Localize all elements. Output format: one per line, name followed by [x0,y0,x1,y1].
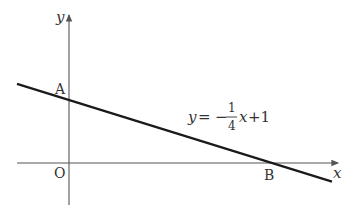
point-a-label: A [54,81,66,97]
y-axis-label: y [55,8,65,26]
coordinate-diagram: y x O A B y = − 1 4 x +1 [0,0,355,214]
line-equation: y = − 1 4 x +1 [187,101,270,133]
equation-sign: − [215,108,228,126]
x-axis-label: x [333,164,342,182]
equation-var: x [239,108,248,126]
equation-denominator: 4 [228,119,236,133]
origin-label: O [54,165,65,181]
equation-lhs: y [187,108,197,126]
equation-equals: = [198,108,211,126]
equation-numerator: 1 [228,101,236,115]
point-b-label: B [264,167,274,183]
equation-tail: +1 [248,108,270,126]
